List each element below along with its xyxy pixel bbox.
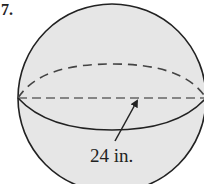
dimension-label: 24 in. bbox=[90, 146, 133, 165]
problem-number: 7. bbox=[1, 2, 13, 18]
